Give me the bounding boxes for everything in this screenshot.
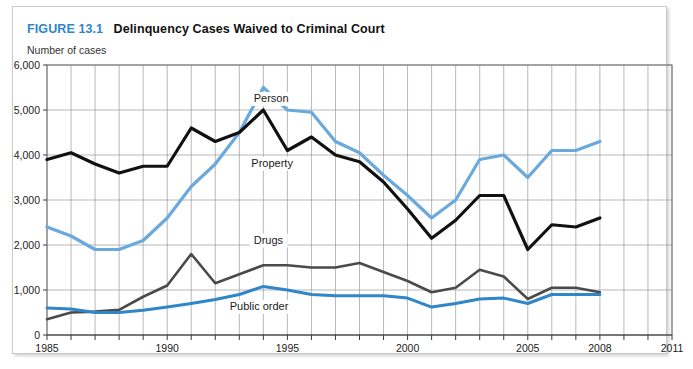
page-title: Delinquency Cases Waived to Criminal Cou… (114, 22, 385, 36)
figure-card: FIGURE 13.1 Delinquency Cases Waived to … (12, 6, 667, 354)
figure-header: FIGURE 13.1 Delinquency Cases Waived to … (27, 19, 385, 37)
y-axis-unit-label: Number of cases (27, 44, 106, 56)
figure-number: FIGURE 13.1 (27, 22, 103, 36)
